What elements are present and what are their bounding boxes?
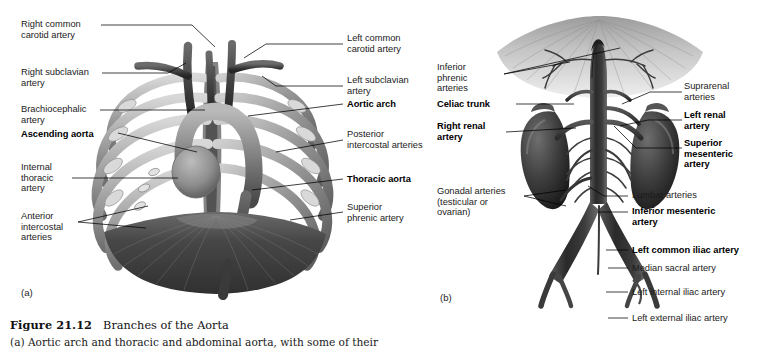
label-left-common-carotid-artery: Left common carotid artery xyxy=(347,33,401,54)
label-right-renal-artery: Right renal artery xyxy=(437,121,485,142)
label-gonadal-arteries: Gonadal arteries (testicular or ovarian) xyxy=(437,186,505,218)
label-left-common-iliac-artery: Left common iliac artery xyxy=(632,245,739,256)
label-median-sacral-artery: Median sacral artery xyxy=(632,263,716,274)
caption-body: (a) Aortic arch and thoracic and abdomin… xyxy=(10,336,710,348)
label-anterior-intercostal-arteries: Anterior intercostal arteries xyxy=(21,211,63,243)
label-suprarenal-arteries: Suprarenal arteries xyxy=(684,81,729,102)
label-brachiocephalic-artery: Brachiocephalic artery xyxy=(21,104,86,125)
label-internal-thoracic-artery: Internal thoracic artery xyxy=(21,162,53,194)
figure-title: Branches of the Aorta xyxy=(103,319,229,332)
label-thoracic-aorta: Thoracic aorta xyxy=(347,174,411,185)
label-left-renal-artery: Left renal artery xyxy=(684,110,726,131)
figure-number: Figure 21.12 xyxy=(10,318,92,332)
label-right-common-carotid-artery: Right common carotid artery xyxy=(21,19,81,40)
thoracic-illustration xyxy=(80,20,350,295)
panel-letter-b: (b) xyxy=(440,292,452,303)
label-posterior-intercostal-arteries: Posterior intercostal arteries xyxy=(347,129,423,150)
panel-letter-a: (a) xyxy=(21,287,33,298)
label-left-subclavian-artery: Left subclavian artery xyxy=(347,75,409,96)
label-left-internal-iliac-artery: Left internal iliac artery xyxy=(632,287,725,298)
label-superior-mesenteric-artery: Superior mesenteric artery xyxy=(684,138,733,170)
label-lumbar-arteries: Lumbar arteries xyxy=(632,190,697,201)
label-aortic-arch: Aortic arch xyxy=(347,99,396,110)
label-celiac-trunk: Celiac trunk xyxy=(437,99,490,110)
label-inferior-mesenteric-artery: Inferior mesenteric artery xyxy=(632,206,715,227)
label-superior-phrenic-artery: Superior phrenic artery xyxy=(347,202,404,223)
label-right-subclavian-artery: Right subclavian artery xyxy=(21,67,89,88)
label-ascending-aorta: Ascending aorta xyxy=(21,129,94,140)
caption-heading: Figure 21.12Branches of the Aorta xyxy=(10,318,710,332)
label-inferior-phrenic-arteries: Inferior phrenic arteries xyxy=(437,62,468,94)
figure-caption: Figure 21.12Branches of the Aorta (a) Ao… xyxy=(10,318,710,348)
figure-container: Right common carotid artery Right subcla… xyxy=(0,0,779,354)
